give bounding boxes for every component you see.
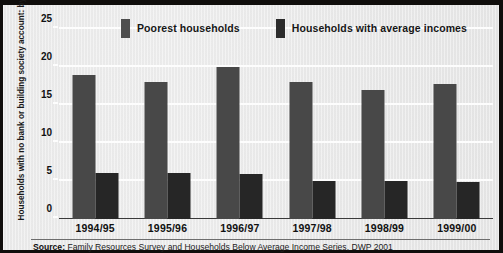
bar-pair [361, 29, 408, 219]
y-tick-dash-10 [53, 140, 58, 142]
bar-average [312, 181, 335, 219]
legend-label-poorest: Poorest households [137, 22, 240, 34]
x-axis-label: 1994/95 [59, 222, 131, 238]
bar-pair [216, 29, 263, 219]
source-text: Family Resources Survey and Households B… [65, 242, 393, 252]
bar-average [240, 174, 263, 219]
y-axis-title-text: Households with no bank or building soci… [16, 35, 27, 220]
y-tick-dash-0 [53, 216, 58, 218]
bar-group [348, 29, 420, 219]
y-tick-dash-20 [53, 64, 58, 66]
chart-legend: Poorest households Households with avera… [121, 18, 467, 38]
y-tick-label-5: 5 [46, 165, 52, 176]
chart-plate: Poorest households Households with avera… [3, 5, 499, 250]
y-tick-label-25: 25 [41, 13, 52, 24]
y-axis-title: Households with no bank or building soci… [9, 35, 33, 220]
bar-pair [144, 29, 191, 219]
y-tick-label-10: 10 [41, 127, 52, 138]
bar-poorest [144, 82, 167, 219]
bar-average [167, 173, 190, 219]
chart-figure: Poorest households Households with avera… [0, 0, 503, 253]
bar-pair [433, 29, 480, 219]
bar-group [131, 29, 203, 219]
plot-area: 0510152025 [59, 29, 493, 219]
x-axis-labels: 1994/951995/961996/971997/981998/991999/… [59, 222, 493, 238]
source-prefix: Source: [33, 242, 65, 252]
bar-pair [72, 29, 119, 219]
x-axis-label: 1995/96 [131, 222, 203, 238]
bar-group [276, 29, 348, 219]
bar-group [204, 29, 276, 219]
legend-item-poorest: Poorest households [121, 19, 240, 38]
x-axis-label: 1997/98 [276, 222, 348, 238]
bar-group [421, 29, 493, 219]
legend-swatch-icon-poorest [121, 19, 130, 38]
legend-item-average: Households with average incomes [276, 19, 467, 38]
x-axis-label: 1998/99 [348, 222, 420, 238]
y-tick-label-15: 15 [41, 89, 52, 100]
bar-pair [289, 29, 336, 219]
x-axis-label: 1996/97 [204, 222, 276, 238]
bar-poorest [217, 67, 240, 219]
y-tick-dash-25 [53, 26, 58, 28]
y-tick-dash-15 [53, 102, 58, 104]
bar-poorest [434, 84, 457, 219]
bar-group [59, 29, 131, 219]
source-divider [31, 239, 490, 240]
y-tick-label-20: 20 [41, 51, 52, 62]
bar-average [457, 182, 480, 219]
bar-groups [59, 29, 493, 219]
legend-swatch-icon-average [276, 19, 285, 38]
bar-average [384, 181, 407, 219]
bar-poorest [72, 75, 95, 219]
bar-poorest [289, 82, 312, 219]
legend-label-average: Households with average incomes [292, 22, 467, 34]
bar-average [95, 173, 118, 219]
y-tick-dash-5 [53, 178, 58, 180]
x-axis-label: 1999/00 [421, 222, 493, 238]
y-tick-label-0: 0 [46, 203, 52, 214]
bar-poorest [361, 90, 384, 219]
source-note: Source: Family Resources Survey and Hous… [33, 242, 393, 252]
